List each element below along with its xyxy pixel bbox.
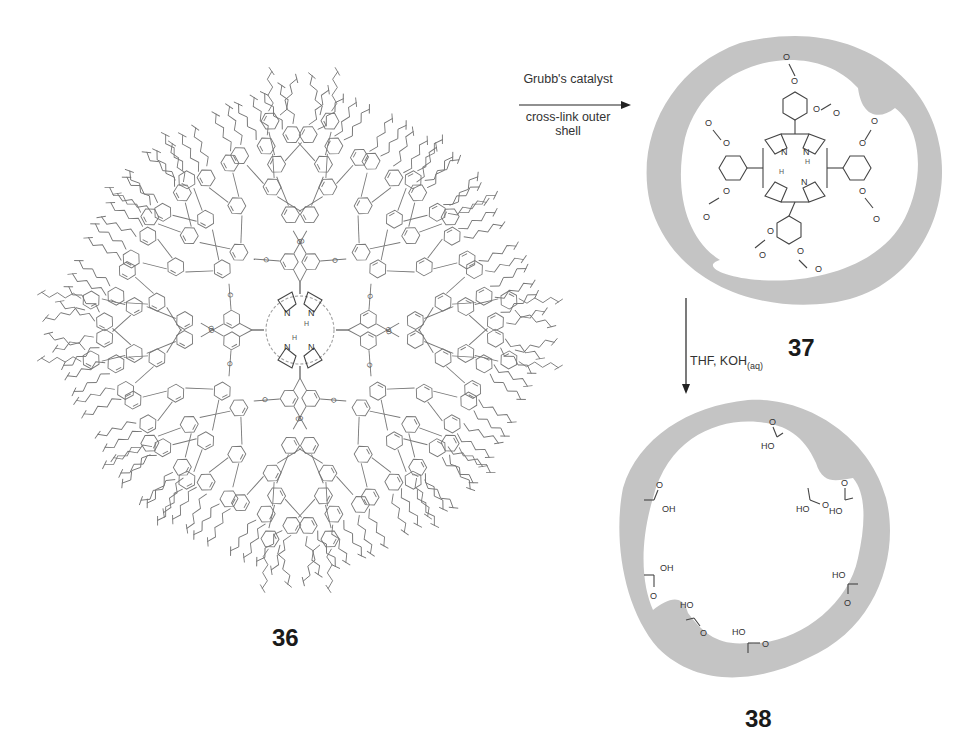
down-arrow [681,298,691,394]
right-arrow [519,96,631,106]
condition-step2-sub: (aq) [747,361,763,371]
svg-text:O: O [859,186,866,196]
svg-text:O: O [783,52,790,62]
svg-text:O: O [700,628,707,638]
svg-text:N: N [284,308,291,318]
svg-text:N: N [308,342,315,352]
svg-text:O: O [762,639,769,649]
svg-text:H: H [779,168,784,175]
svg-text:O: O [815,264,822,274]
svg-text:O: O [656,480,663,490]
svg-text:O: O [844,598,851,608]
svg-text:O: O [833,108,840,118]
condition-above-step1: Grubb's catalyst [512,72,624,86]
svg-text:O: O [873,214,880,224]
compound-label-36: 36 [272,624,299,652]
svg-text:O: O [841,478,848,488]
svg-text:O: O [797,246,804,256]
svg-text:HO: HO [796,504,810,514]
porphyrin-core-37: N N N H H O O O O O O O O [703,52,880,274]
svg-text:H: H [292,334,297,341]
svg-text:O: O [813,104,820,114]
svg-text:H: H [805,158,810,165]
svg-text:O: O [759,250,766,260]
svg-text:HO: HO [680,600,694,610]
compound-label-38: 38 [745,705,772,733]
crosslinked-shell-38 [619,400,890,678]
svg-text:N: N [284,342,291,352]
condition-step2: THF, KOH(aq) [690,354,763,373]
svg-text:OH: OH [660,563,674,573]
svg-text:H: H [304,320,309,327]
svg-text:N: N [308,308,315,318]
svg-text:N: N [803,147,810,157]
svg-text:O: O [650,591,657,601]
svg-text:O: O [791,76,798,86]
svg-text:O: O [767,226,774,236]
svg-text:N: N [781,147,788,157]
shell-37: N N N H H O O O O O O O O [630,28,960,308]
svg-text:HO: HO [732,627,746,637]
svg-text:O: O [871,116,878,126]
svg-text:O: O [822,500,829,510]
svg-text:O: O [705,118,712,128]
dendrimer-36: O O [30,40,590,610]
nanocapsule-38: OHO OHO OHO OOH OOH OHO OHO OHO [608,388,908,698]
svg-text:O: O [723,186,730,196]
svg-text:O: O [723,138,730,148]
porphyrin-core: N N N N H H [252,282,348,378]
svg-text:OH: OH [662,504,676,514]
svg-text:O: O [703,212,710,222]
svg-text:HO: HO [829,506,843,516]
dendrimer-structure: O O [30,40,590,610]
condition-below-line1: cross-link outer [512,110,624,124]
condition-below-line2: shell [512,124,624,138]
svg-text:HO: HO [761,441,775,451]
svg-text:O: O [769,417,776,427]
svg-text:N: N [801,177,808,187]
condition-below-step1: cross-link outer shell [512,110,624,138]
compound-label-37: 37 [788,334,815,362]
svg-text:HO: HO [832,570,846,580]
condition-step2-main: THF, KOH [690,354,747,368]
